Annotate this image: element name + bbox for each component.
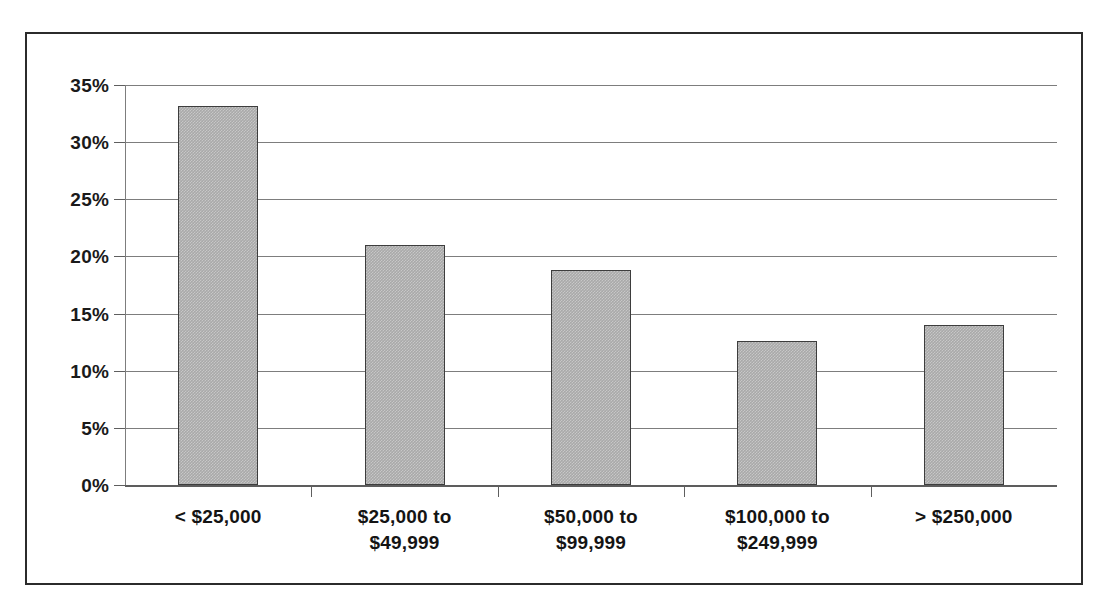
y-axis-tick-mark	[114, 485, 125, 486]
x-axis-category-label-line: $249,999	[684, 530, 870, 556]
y-axis-tick-mark	[114, 371, 125, 372]
y-axis-tick-label: 20%	[45, 247, 109, 266]
gridline	[125, 199, 1057, 200]
x-axis-tick-mark	[498, 485, 499, 497]
x-axis-category-label-line: < $25,000	[175, 506, 262, 527]
y-axis-tick-mark	[114, 85, 125, 86]
y-axis-tick-label: 30%	[45, 133, 109, 152]
y-axis-tick-label: 35%	[45, 76, 109, 95]
x-axis-tick-mark	[684, 485, 685, 497]
x-axis-category-label: < $25,000	[125, 504, 311, 530]
x-axis-category-label: > $250,000	[871, 504, 1057, 530]
y-axis-tick-mark	[114, 142, 125, 143]
x-axis-category-label-line: $49,999	[311, 530, 497, 556]
x-axis-line	[125, 485, 1057, 487]
x-axis-category-label: $25,000 to$49,999	[311, 504, 497, 555]
y-axis-tick-label: 0%	[45, 476, 109, 495]
x-axis-category-label-line: $50,000 to	[544, 506, 638, 527]
x-axis-labels: < $25,000$25,000 to$49,999$50,000 to$99,…	[125, 504, 1057, 574]
x-axis-category-label-line: > $250,000	[915, 506, 1013, 527]
gridline	[125, 142, 1057, 143]
bar	[551, 270, 631, 485]
gridline	[125, 85, 1057, 86]
y-axis-tick-label: 25%	[45, 190, 109, 209]
bar	[365, 245, 445, 485]
x-axis-category-label: $100,000 to$249,999	[684, 504, 870, 555]
plot-area	[125, 85, 1057, 485]
bar	[737, 341, 817, 485]
chart-frame: 35% 30% 25% 20% 15% 10% 5% 0% < $25,000$…	[25, 32, 1083, 585]
gridline	[125, 256, 1057, 257]
x-axis-category-label-line: $100,000 to	[725, 506, 830, 527]
y-axis-tick-mark	[114, 428, 125, 429]
bar	[178, 106, 258, 485]
y-axis-tick-mark	[114, 199, 125, 200]
x-axis-tick-mark	[871, 485, 872, 497]
y-axis-tick-label: 5%	[45, 418, 109, 437]
y-axis-tick-label: 15%	[45, 304, 109, 323]
bar	[924, 325, 1004, 485]
x-axis-tick-mark	[311, 485, 312, 497]
y-axis-labels: 35% 30% 25% 20% 15% 10% 5% 0%	[37, 66, 109, 536]
x-axis-category-label-line: $99,999	[498, 530, 684, 556]
y-axis-tick-mark	[114, 256, 125, 257]
y-axis-tick-label: 10%	[45, 361, 109, 380]
x-axis-category-label: $50,000 to$99,999	[498, 504, 684, 555]
y-axis-tick-mark	[114, 314, 125, 315]
x-axis-category-label-line: $25,000 to	[358, 506, 452, 527]
